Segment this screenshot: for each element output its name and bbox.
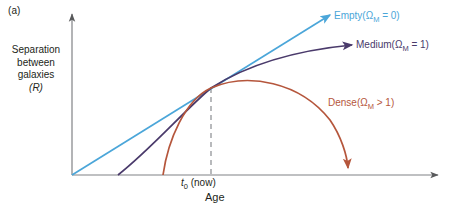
- curve-label-dense-omega-open: (Ω: [357, 97, 368, 108]
- curve-label-medium-name: Medium: [356, 39, 392, 50]
- curve-label-dense: Dense(ΩM > 1): [328, 97, 394, 111]
- curve-medium: [118, 45, 352, 175]
- curve-label-dense-name: Dense: [328, 97, 357, 108]
- curve-label-empty-name: Empty: [334, 10, 362, 21]
- curve-label-medium-value: = 1): [409, 39, 429, 50]
- tick-suffix: (now): [188, 177, 216, 188]
- curve-label-medium-omega-open: (Ω: [392, 39, 403, 50]
- x-axis-title: Age: [205, 191, 225, 203]
- curve-label-medium: Medium(ΩM = 1): [356, 39, 429, 53]
- x-axis-tick-label-now: t0 (now): [181, 177, 216, 191]
- curve-label-empty-value: = 0): [379, 10, 399, 21]
- curve-label-empty: Empty(ΩM = 0): [334, 10, 400, 24]
- curve-dense: [163, 81, 348, 175]
- cosmology-expansion-figure: (a) Separation between galaxies (R): [0, 0, 453, 212]
- curve-label-dense-value: > 1): [374, 97, 394, 108]
- curve-label-empty-omega-open: (Ω: [362, 10, 373, 21]
